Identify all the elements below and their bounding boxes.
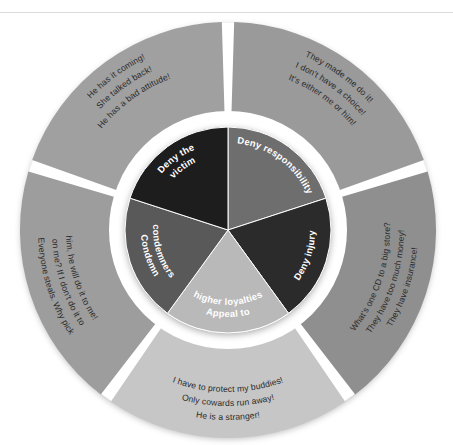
neutralization-wheel: They made me do it!I don't have a choice… [0, 0, 453, 445]
diagram-page: They made me do it!I don't have a choice… [0, 0, 453, 445]
